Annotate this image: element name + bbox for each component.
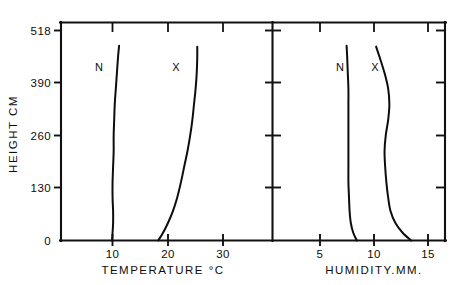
y-tick-label-390: 390 bbox=[31, 77, 51, 89]
series-label-temperature-n: N bbox=[95, 61, 103, 73]
x-tick-label-hum-15: 15 bbox=[421, 248, 435, 260]
left-panel-curves bbox=[112, 46, 197, 241]
curve-temperature-x bbox=[158, 47, 197, 241]
x-tick-label-temp-20: 20 bbox=[161, 248, 175, 260]
x-axis-title-temperature: TEMPERATURE °C bbox=[101, 264, 224, 276]
x-tick-label-hum-5: 5 bbox=[317, 248, 324, 260]
y-tick-label-518: 518 bbox=[31, 25, 51, 37]
y-tick-label-260: 260 bbox=[31, 130, 51, 142]
series-label-humidity-x: X bbox=[371, 61, 379, 73]
right-panel-x-tick-labels: 5 10 15 bbox=[317, 248, 435, 260]
curve-temperature-n bbox=[112, 46, 119, 241]
y-tick-labels: 518 390 260 130 0 bbox=[31, 25, 51, 247]
x-tick-label-hum-10: 10 bbox=[367, 248, 381, 260]
figure-container: 518 390 260 130 0 10 20 30 5 10 15 TEMPE… bbox=[0, 0, 460, 285]
dual-panel-profile-chart: 518 390 260 130 0 10 20 30 5 10 15 TEMPE… bbox=[0, 0, 460, 285]
series-label-temperature-x: X bbox=[172, 61, 180, 73]
right-panel-curves bbox=[347, 46, 411, 241]
x-tick-label-temp-10: 10 bbox=[106, 248, 120, 260]
curve-humidity-x bbox=[376, 47, 411, 241]
y-tick-label-0: 0 bbox=[44, 235, 51, 247]
x-axis-title-humidity: HUMIDITY.MM. bbox=[325, 264, 423, 276]
y-tick-label-130: 130 bbox=[31, 182, 51, 194]
y-axis-title-height: HEIGHT CM bbox=[7, 95, 19, 173]
series-label-humidity-n: N bbox=[336, 61, 344, 73]
x-tick-label-temp-30: 30 bbox=[216, 248, 230, 260]
curve-humidity-n bbox=[347, 46, 357, 241]
left-panel-x-tick-labels: 10 20 30 bbox=[106, 248, 230, 260]
